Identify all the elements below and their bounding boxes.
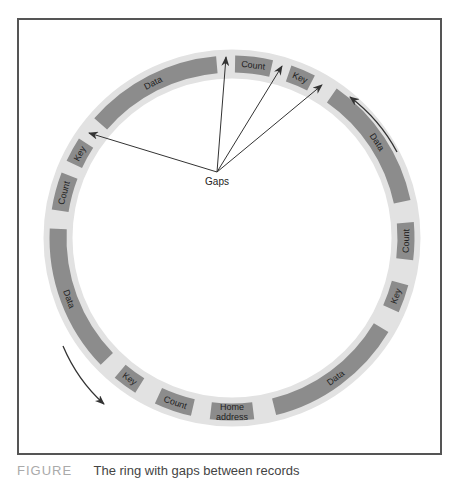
segment-label: Count — [401, 228, 411, 253]
gap-arrow — [89, 133, 217, 172]
gap-arrow — [217, 66, 282, 172]
gap-arrow — [217, 85, 322, 172]
segment-label: Homeaddress — [216, 402, 249, 422]
figure-caption: FIGURE The ring with gaps between record… — [17, 463, 299, 478]
caption-text: The ring with gaps between records — [94, 463, 300, 478]
gaps-label: Gaps — [205, 176, 229, 187]
figure-number: FIGURE — [17, 463, 72, 478]
